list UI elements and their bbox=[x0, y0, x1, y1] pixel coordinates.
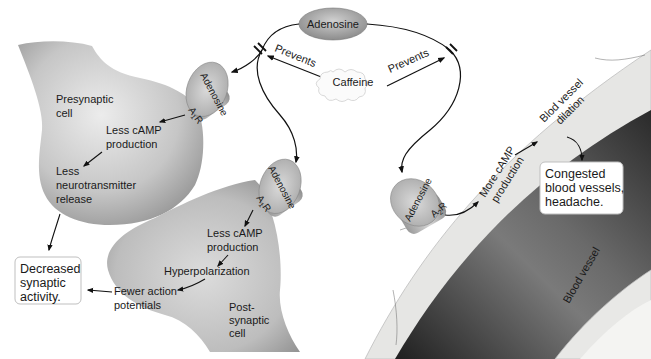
prevents-left-label: Prevents bbox=[273, 42, 318, 70]
diagram-canvas: Adenosine Caffeine Prevents Prevents Ade… bbox=[0, 0, 651, 359]
caffeine-label: Caffeine bbox=[333, 76, 374, 88]
diagram-svg: Adenosine Caffeine Prevents Prevents Ade… bbox=[0, 0, 651, 359]
adenosine-node: Adenosine bbox=[299, 8, 367, 40]
decreased-synaptic-activity-box: Decreased synaptic activity. bbox=[15, 257, 84, 304]
prevents-right-label: Prevents bbox=[386, 46, 431, 75]
congested-blood-vessels-box: Congested blood vessels, headache. bbox=[540, 162, 628, 214]
postsynaptic-hyperpolarization: Hyperpolarization bbox=[164, 265, 250, 277]
adenosine-label: Adenosine bbox=[307, 18, 359, 30]
caffeine-node: Caffeine bbox=[316, 69, 373, 102]
